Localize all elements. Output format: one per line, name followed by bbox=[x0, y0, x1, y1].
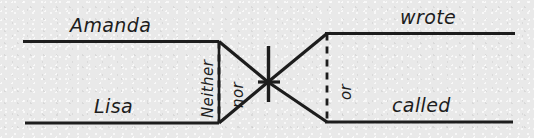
sentence-diagram: Amanda Lisa wrote called Neither nor or bbox=[0, 0, 534, 138]
label-subject-top: Amanda bbox=[70, 14, 151, 36]
label-correlative-nor: nor bbox=[229, 82, 247, 108]
verb-top-diagonal bbox=[268, 34, 327, 83]
label-subject-bottom: Lisa bbox=[94, 95, 133, 117]
label-correlative-neither: Neither bbox=[199, 60, 217, 118]
subject-top-diagonal bbox=[219, 42, 268, 83]
label-verb-top: wrote bbox=[400, 6, 456, 28]
label-correlative-or: or bbox=[337, 84, 355, 100]
label-verb-bottom: called bbox=[392, 94, 451, 116]
verb-bottom-diagonal bbox=[268, 82, 327, 122]
